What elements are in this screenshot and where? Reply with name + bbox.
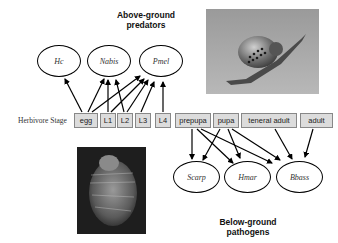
stage-egg: egg: [74, 113, 98, 128]
pathogen-bbass-label: Bbass: [290, 173, 309, 182]
stage-teneral-adult: teneral adult: [241, 113, 297, 128]
stage-adult: adult: [300, 113, 333, 128]
pathogen-hmar: Hmar: [224, 161, 271, 193]
predator-pmel-label: Pmel: [153, 57, 169, 66]
pathogen-scarp-label: Scarp: [187, 173, 206, 182]
stage-l2: L2: [117, 113, 133, 128]
stage-l4: L4: [155, 113, 171, 128]
stage-l3: L3: [135, 113, 151, 128]
stage-prepupa: prepupa: [175, 113, 211, 128]
predator-pmel: Pmel: [139, 45, 183, 77]
predator-hc: Hc: [37, 45, 81, 77]
predator-nabis-label: Nabis: [100, 57, 119, 66]
predator-hc-label: Hc: [54, 57, 63, 66]
stage-l1: L1: [100, 113, 116, 128]
pathogen-hmar-label: Hmar: [238, 173, 257, 182]
predator-nabis: Nabis: [87, 45, 131, 77]
pathogen-scarp: Scarp: [173, 161, 220, 193]
herbivore-stage-label: Herbivore Stage: [18, 116, 67, 125]
stage-pupa: pupa: [213, 113, 239, 128]
pathogen-bbass: Bbass: [276, 161, 323, 193]
